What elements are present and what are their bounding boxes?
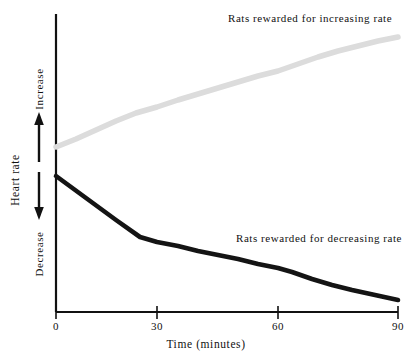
chart-canvas	[0, 0, 412, 361]
x-tick-label-0: 0	[41, 320, 71, 332]
heart-rate-line-chart: 0 30 60 90 Time (minutes) Heart rate Inc…	[0, 0, 412, 361]
series-annotation-decreasing: Rats rewarded for decreasing rate	[236, 232, 402, 244]
series-annotation-increasing: Rats rewarded for increasing rate	[228, 12, 392, 24]
x-tick-label-60: 60	[263, 320, 293, 332]
y-axis-title: Heart rate	[9, 120, 21, 240]
y-axis-decrease-label: Decrease	[33, 209, 45, 299]
x-axis-title: Time (minutes)	[0, 338, 412, 350]
x-tick-label-90: 90	[383, 320, 412, 332]
x-tick-label-30: 30	[142, 320, 172, 332]
series-line-increasing	[56, 37, 398, 147]
y-axis-increase-label: Increase	[33, 44, 45, 134]
